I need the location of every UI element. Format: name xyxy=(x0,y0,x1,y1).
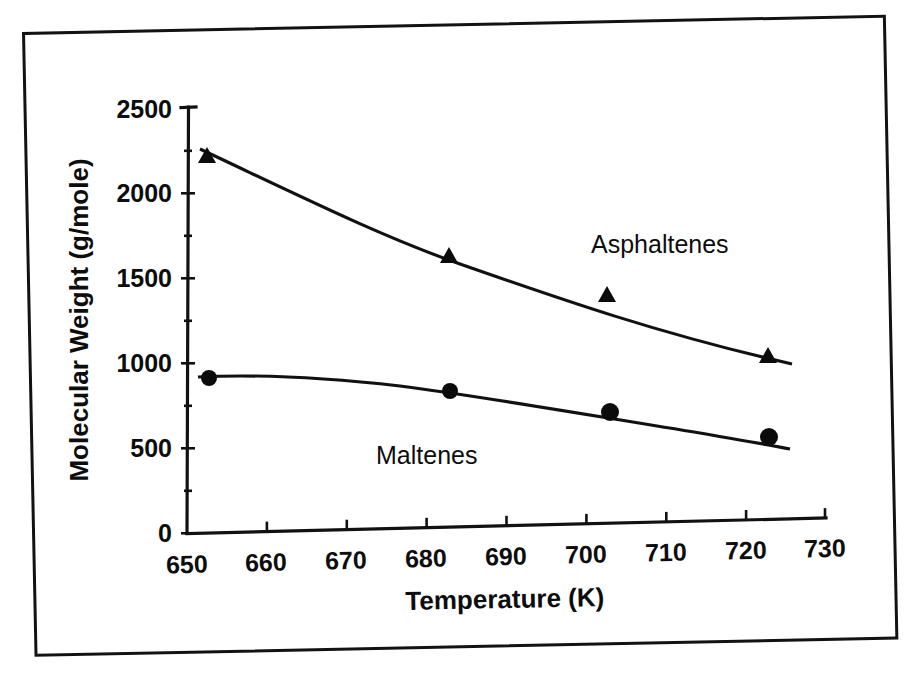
asphaltenes-data-point xyxy=(759,347,777,363)
x-tick-label-730: 730 xyxy=(804,534,846,563)
y-axis-top-cap xyxy=(181,107,196,108)
molecular-weight-vs-temperature-chart: 0 500 1000 1500 2000 2500 650 660 670 68… xyxy=(0,0,922,699)
x-tick-label-720: 720 xyxy=(725,536,767,565)
x-tick-label-700: 700 xyxy=(565,540,607,569)
asphaltenes-data-point xyxy=(598,286,616,302)
y-tick-label-2000: 2000 xyxy=(116,179,172,207)
y-tick-label-2500: 2500 xyxy=(116,95,172,123)
asphaltenes-series-label: Asphaltenes xyxy=(591,230,729,258)
axis-group xyxy=(181,107,826,534)
y-axis-tick-labels: 0 500 1000 1500 2000 2500 xyxy=(116,95,172,547)
x-tick-label-660: 660 xyxy=(245,548,287,577)
x-tick-label-670: 670 xyxy=(325,546,367,575)
maltenes-data-point xyxy=(760,428,778,446)
y-axis-title: Molecular Weight (g/mole) xyxy=(64,158,94,481)
x-tick-label-650: 650 xyxy=(166,550,208,579)
x-tick-label-710: 710 xyxy=(645,538,687,567)
x-axis-title: Temperature (K) xyxy=(405,582,604,616)
y-tick-label-1500: 1500 xyxy=(116,264,172,292)
series-maltenes: Maltenes xyxy=(198,370,790,469)
x-axis-tick-labels: 650 660 670 680 690 700 710 720 730 xyxy=(166,534,846,579)
figure-page: 0 500 1000 1500 2000 2500 650 660 670 68… xyxy=(0,0,922,699)
maltenes-data-point xyxy=(601,403,619,421)
maltenes-trend-line xyxy=(198,376,790,449)
maltenes-series-label: Maltenes xyxy=(376,441,477,469)
series-asphaltenes: Asphaltenes xyxy=(198,147,792,364)
y-tick-label-1000: 1000 xyxy=(116,349,172,377)
x-tick-label-680: 680 xyxy=(405,544,447,573)
x-tick-label-690: 690 xyxy=(485,542,527,571)
maltenes-data-point xyxy=(201,370,217,386)
maltenes-data-point xyxy=(442,383,458,399)
asphaltenes-data-point xyxy=(440,247,458,263)
y-tick-label-500: 500 xyxy=(130,434,172,462)
y-tick-label-0: 0 xyxy=(158,519,172,547)
